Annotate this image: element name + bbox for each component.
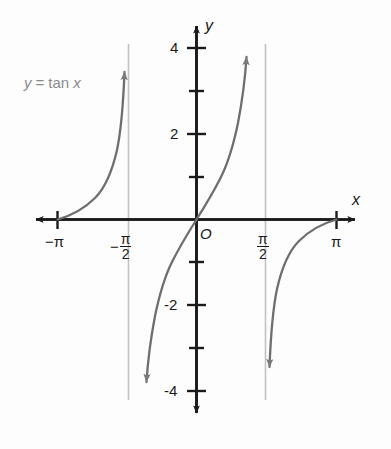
equation-equals-sign: =: [36, 74, 45, 91]
y-tick-label-neg2: -2: [164, 297, 177, 312]
curve-equation-label: y=tanx: [24, 75, 81, 90]
x-tick-label-neg-pi: −π: [45, 234, 64, 249]
x-tick-label-neg-pi-over-2: − π 2: [110, 232, 131, 262]
fraction-pi-over-2: π 2: [120, 232, 132, 262]
y-axis-label: y: [205, 18, 213, 34]
equation-x-term: x: [73, 74, 81, 91]
plot-canvas: [0, 0, 391, 449]
equation-tan-term: tan: [48, 74, 69, 91]
y-tick-label-4: 4: [170, 40, 178, 55]
origin-label: O: [200, 226, 212, 241]
equation-y-term: y: [24, 74, 32, 91]
fraction-pi-over-2-positive: π 2: [257, 232, 269, 262]
y-tick-label-2: 2: [170, 126, 178, 141]
fraction-numerator: π: [257, 232, 269, 246]
fraction-denominator: 2: [120, 247, 132, 261]
x-axis-label: x: [352, 192, 360, 208]
y-tick-label-neg4: -4: [164, 383, 177, 398]
fraction-numerator: π: [120, 232, 132, 246]
tangent-function-graph: y x O 4 2 -2 -4 −π − π 2 π 2 π y=tanx: [0, 0, 391, 449]
fraction-denominator: 2: [257, 247, 269, 261]
x-tick-label-pi: π: [331, 234, 341, 249]
minus-sign: −: [110, 239, 119, 254]
neg-fraction-wrapper: − π 2: [110, 232, 131, 262]
x-tick-label-pi-over-2: π 2: [257, 232, 269, 262]
